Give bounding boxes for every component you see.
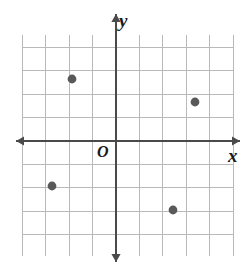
graph-canvas [0, 0, 252, 269]
coordinate-plane-figure: y x O [0, 0, 252, 269]
data-point [48, 182, 57, 191]
data-point [68, 75, 77, 84]
axis-lines [16, 14, 240, 262]
data-point [169, 206, 178, 215]
origin-label: O [97, 144, 109, 160]
grid-lines [22, 35, 233, 256]
x-axis-label: x [228, 146, 238, 165]
data-point [191, 98, 200, 107]
y-axis-label: y [119, 11, 127, 30]
data-points [48, 75, 200, 215]
